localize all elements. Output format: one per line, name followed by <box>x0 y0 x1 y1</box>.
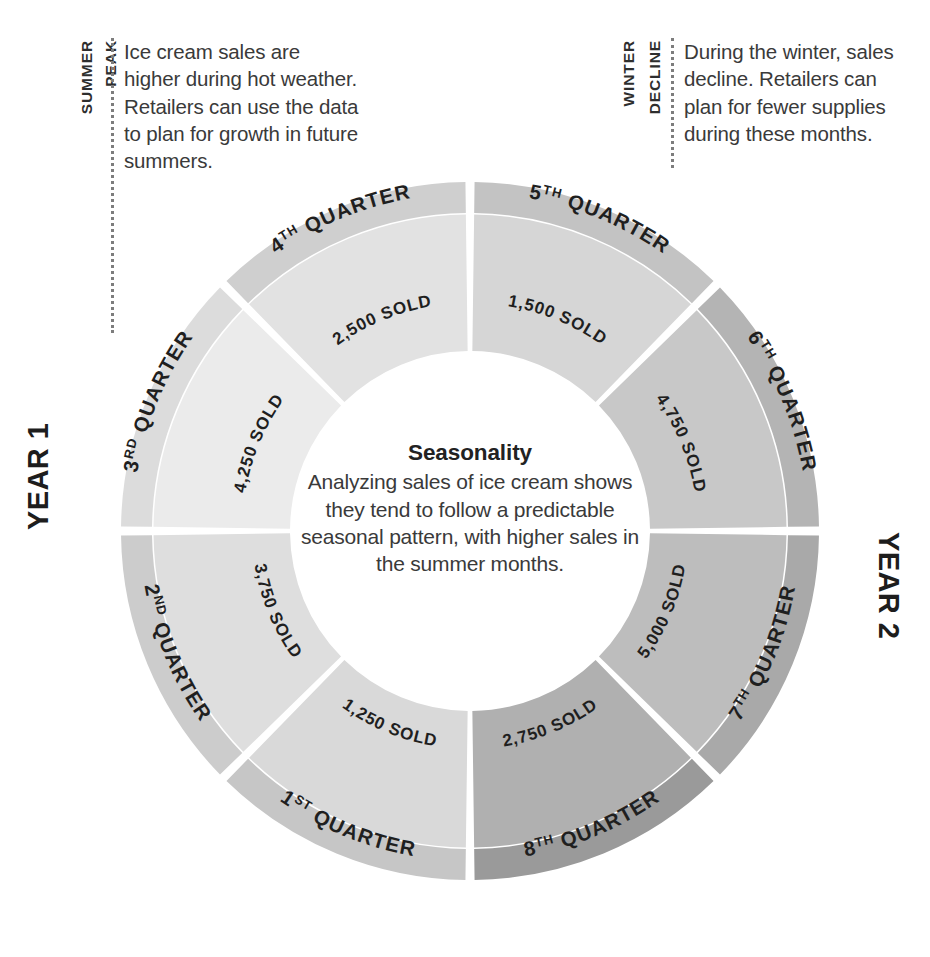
winter-decline-kicker-line1: WINTER <box>620 40 637 107</box>
year-1-label: YEAR 1 <box>22 423 55 530</box>
center-body: Analyzing sales of ice cream shows they … <box>295 468 645 577</box>
summer-peak-leader-line <box>111 38 114 333</box>
year-2-label: YEAR 2 <box>872 532 905 639</box>
center-title: Seasonality <box>295 438 645 467</box>
summer-peak-kicker-line1: SUMMER <box>78 40 95 114</box>
winter-decline-body: During the winter, sales decline. Retail… <box>684 38 916 147</box>
center-text-block: Seasonality Analyzing sales of ice cream… <box>295 438 645 577</box>
winter-decline-kicker-line2: DECLINE <box>646 40 663 114</box>
infographic-canvas: 4TH QUARTER2,500 SOLD5TH QUARTER1,500 SO… <box>0 0 930 957</box>
winter-decline-leader-line <box>671 38 674 168</box>
summer-peak-body: Ice cream sales are higher during hot we… <box>124 38 359 174</box>
